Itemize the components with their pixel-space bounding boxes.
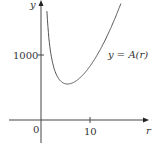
- x-axis: [9, 118, 149, 123]
- chart: y r 0 10 1000 y = A(r): [0, 0, 163, 158]
- x-axis-arrow-icon: [143, 118, 149, 123]
- curve-label: y = A(r): [107, 49, 148, 60]
- y-axis: [39, 0, 44, 143]
- x-axis-label: r: [146, 125, 152, 136]
- y-axis-arrow-icon: [39, 0, 44, 6]
- y-axis-label: y: [29, 0, 36, 10]
- origin-label: 0: [33, 124, 39, 135]
- curve-a-of-r: [47, 4, 121, 85]
- x-tick-label-10: 10: [84, 126, 97, 137]
- y-tick-label-1000: 1000: [13, 50, 38, 61]
